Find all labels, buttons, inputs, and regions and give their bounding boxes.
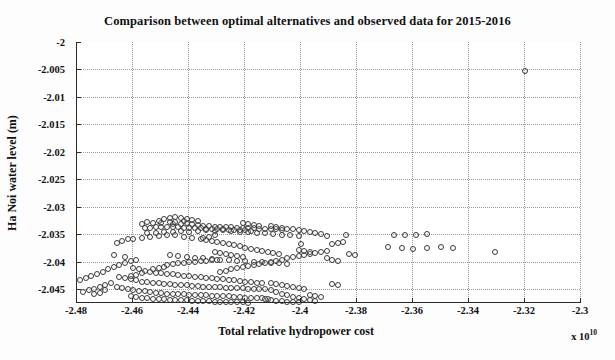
x-tick-label: -2.38 [345, 305, 367, 316]
y-tick-label: -2.035 [38, 229, 72, 240]
scatter-point [296, 233, 302, 239]
x-axis-multiplier: x 1010 [571, 328, 597, 342]
scatter-point [139, 270, 145, 276]
scatter-point [167, 215, 173, 221]
scatter-point [195, 218, 201, 224]
scatter-point [399, 245, 405, 251]
scatter-point [413, 232, 419, 238]
plot-area [76, 42, 580, 303]
x-tick [580, 298, 581, 303]
y-tick-label: -2.025 [38, 174, 72, 185]
scatter-point [167, 252, 173, 258]
scatter-point [212, 232, 218, 238]
scatter-point [172, 232, 178, 238]
figure-root: Comparison between optimal alternatives … [0, 0, 615, 360]
scatter-point [438, 244, 444, 250]
scatter-point [424, 231, 430, 237]
y-tick [76, 262, 81, 263]
x-tick-label: -2.36 [401, 305, 423, 316]
y-tick [76, 234, 81, 235]
y-tick-label: -2.01 [43, 91, 72, 102]
scatter-point [139, 235, 145, 241]
y-tick [76, 97, 81, 98]
scatter-point [128, 273, 134, 279]
gridline-vertical [580, 42, 581, 303]
scatter-point [175, 253, 181, 259]
x-tick [412, 298, 413, 303]
scatter-point [125, 236, 131, 242]
scatter-point [410, 246, 416, 252]
scatter-point [424, 245, 430, 251]
scatter-point [111, 264, 117, 270]
x-tick-label: -2.42 [233, 305, 255, 316]
x-tick-labels: -2.48-2.46-2.44-2.42-2.4-2.38-2.36-2.34-… [76, 305, 580, 325]
scatter-point [100, 269, 106, 275]
scatter-point [522, 68, 528, 74]
scatter-point [94, 271, 100, 277]
x-tick [468, 298, 469, 303]
y-tick-label: -2 [56, 37, 72, 48]
scatter-point [147, 234, 153, 240]
scatter-point [402, 232, 408, 238]
y-tick [76, 289, 81, 290]
y-tick [76, 152, 81, 153]
y-tick-label: -2.03 [43, 201, 72, 212]
scatter-point [385, 244, 391, 250]
scatter-point [391, 232, 397, 238]
x-tick-label: -2.48 [65, 305, 87, 316]
scatter-point [181, 234, 187, 240]
scatter-point [307, 249, 313, 255]
chart-title: Comparison between optimal alternatives … [0, 14, 615, 29]
scatter-point [189, 235, 195, 241]
scatter-point [340, 239, 346, 245]
x-tick-label: -2.44 [177, 305, 199, 316]
x-tick-label: -2.4 [292, 305, 309, 316]
scatter-point [284, 261, 290, 267]
scatter-point [335, 282, 341, 288]
x-tick [356, 298, 357, 303]
scatter-point [287, 232, 293, 238]
x-tick [524, 298, 525, 303]
scatter-point [318, 294, 324, 300]
scatter-point [343, 232, 349, 238]
scatter-point [301, 286, 307, 292]
x-tick [300, 298, 301, 303]
scatter-point [352, 252, 358, 258]
scatter-point [77, 277, 83, 283]
scatter-point [324, 248, 330, 254]
scatter-point [133, 257, 139, 263]
y-tick-label: -2.04 [43, 256, 72, 267]
x-tick [188, 298, 189, 303]
scatter-point [248, 228, 254, 234]
scatter-point [91, 291, 97, 297]
scatter-point [335, 258, 341, 264]
scatter-point [122, 260, 128, 266]
x-tick-label: -2.46 [121, 305, 143, 316]
scatter-point [161, 264, 167, 270]
scatter-point [116, 262, 122, 268]
scatter-point [88, 273, 94, 279]
y-tick [76, 42, 81, 43]
y-tick [76, 124, 81, 125]
scatter-point [130, 236, 136, 242]
y-tick-label: -2.02 [43, 146, 72, 157]
x-axis-multiplier-text: x 10 [571, 331, 589, 342]
scatter-point [83, 275, 89, 281]
x-tick [76, 298, 77, 303]
scatter-point [226, 257, 232, 263]
y-tick [76, 179, 81, 180]
x-axis-title: Total relative hydropower cost [76, 324, 516, 339]
scatter-point [111, 252, 117, 258]
scatter-point [156, 218, 162, 224]
x-axis-multiplier-exponent: 10 [590, 328, 598, 337]
scatter-point [108, 280, 114, 286]
y-tick-labels: -2-2.005-2.01-2.015-2.02-2.025-2.03-2.03… [0, 42, 72, 303]
y-tick [76, 207, 81, 208]
y-tick [76, 69, 81, 70]
y-tick-label: -2.015 [38, 119, 72, 130]
scatter-point [312, 298, 318, 304]
scatter-point [119, 238, 125, 244]
scatter-point [105, 266, 111, 272]
scatter-point [97, 290, 103, 296]
scatter-point [492, 249, 498, 255]
